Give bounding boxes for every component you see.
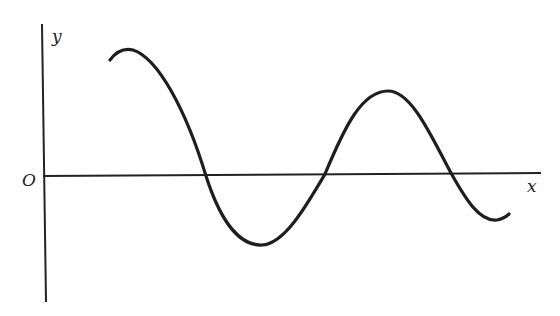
diagram-figure: y O x	[0, 0, 560, 316]
x-axis-label: x	[527, 176, 537, 196]
y-axis	[42, 24, 46, 302]
x-axis	[43, 173, 541, 176]
oscillation-curve	[110, 49, 509, 245]
origin-label: O	[22, 170, 36, 190]
y-axis-label: y	[51, 26, 62, 46]
